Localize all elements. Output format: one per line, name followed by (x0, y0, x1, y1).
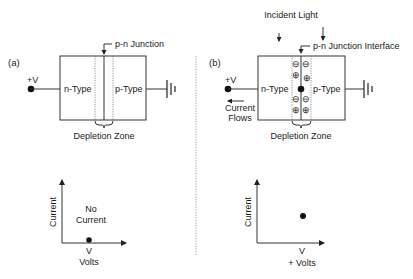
panel-a-depletion-brace (95, 121, 113, 128)
panel-b-current-flow-label-2: Flows (228, 113, 252, 123)
panel-b-graph-x-label-volts: + Volts (288, 258, 316, 268)
panel-b-graph-x-label-v: V (299, 246, 305, 256)
panel-a-depletion-label: Depletion Zone (73, 131, 134, 141)
negative-charge-icon: ⊖ (302, 59, 310, 69)
panel-b-incident-light-label: Incident Light (264, 10, 318, 20)
panel-a: (a) +V n-Type p-Type p-n Junction Deplet… (8, 39, 175, 267)
panel-b-depletion-label: Depletion Zone (270, 131, 331, 141)
positive-charge-icon: ⊕ (292, 70, 300, 80)
panel-a-graph-x-label-v: V (86, 246, 92, 256)
negative-charge-icon: ⊖ (292, 94, 300, 104)
panel-a-voltage-label: +V (27, 75, 38, 85)
panel-b-current-flow-label-1: Current (225, 103, 256, 113)
panel-b-graph-data-point (300, 213, 306, 219)
panel-b-graph: Current V + Volts (243, 180, 324, 268)
panel-b-graph-y-label: Current (243, 196, 253, 227)
panel-b-photon-absorption-dot (298, 86, 305, 93)
panel-b-ground-icon (364, 80, 372, 98)
photodiode-diagram: (a) +V n-Type p-Type p-n Junction Deplet… (0, 0, 413, 279)
panel-b-p-type-label: p-Type (313, 84, 341, 94)
panel-a-label: (a) (8, 57, 20, 68)
panel-a-n-type-label: n-Type (64, 84, 92, 94)
panel-a-p-type-label: p-Type (115, 84, 143, 94)
panel-b-n-type-label: n-Type (261, 84, 289, 94)
panel-b-label: (b) (209, 57, 221, 68)
panel-b: (b) Incident Light p-n Junction Interfac… (209, 10, 400, 268)
panel-a-graph: Current No Current V Volts (48, 180, 126, 267)
panel-b-voltage-label: +V (225, 75, 236, 85)
panel-a-graph-y-label: Current (48, 196, 58, 227)
panel-b-depletion-brace (292, 121, 311, 128)
positive-charge-icon: ⊕ (302, 105, 310, 115)
positive-charge-icon: ⊕ (292, 105, 300, 115)
panel-a-graph-x-label-volts: Volts (79, 257, 99, 267)
panel-a-junction-label: p-n Junction (115, 39, 164, 49)
negative-charge-icon: ⊖ (292, 59, 300, 69)
panel-a-ground-icon (167, 80, 175, 98)
panel-a-graph-data-point (86, 237, 92, 243)
panel-a-graph-annotation-1: No (85, 204, 97, 214)
positive-charge-icon: ⊕ (303, 73, 311, 83)
panel-a-junction-arrowhead-icon (102, 50, 107, 55)
negative-charge-icon: ⊖ (302, 94, 310, 104)
panel-b-junction-label: p-n Junction Interface (313, 41, 400, 51)
panel-b-junction-arrowhead-icon (299, 49, 304, 54)
panel-a-graph-annotation-2: Current (76, 215, 107, 225)
